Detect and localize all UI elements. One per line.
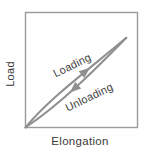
plot-area <box>0 0 150 152</box>
x-axis-label: Elongation <box>51 135 108 147</box>
y-axis-label: Load <box>4 61 16 87</box>
load-elongation-figure: Load Elongation Loading Unloading <box>0 0 150 152</box>
